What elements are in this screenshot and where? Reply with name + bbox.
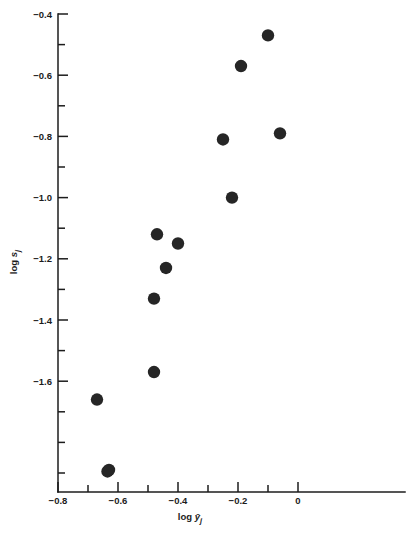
x-tick-label: −0.4 (169, 495, 188, 506)
x-axis-ticks (58, 482, 298, 492)
y-tick-label: −1.2 (33, 253, 52, 264)
data-point (101, 465, 113, 477)
data-point (217, 133, 229, 145)
x-axis-title: log ȳj (178, 511, 203, 525)
data-point (235, 60, 247, 72)
data-point (91, 393, 103, 405)
svg-text:log sj: log sj (8, 249, 22, 274)
caption-ghost-line (60, 528, 405, 538)
data-point (160, 262, 172, 274)
data-point (148, 292, 160, 304)
x-tick-label: −0.8 (49, 495, 68, 506)
y-tick-label: −0.4 (33, 9, 52, 20)
x-axis-title-subscript: j (199, 516, 203, 525)
y-tick-label: −1.0 (33, 192, 52, 203)
data-point (226, 191, 238, 203)
data-point (172, 237, 184, 249)
y-tick-label: −0.6 (33, 70, 52, 81)
data-point (274, 127, 286, 139)
y-tick-label: −1.6 (33, 376, 52, 387)
data-point (262, 29, 274, 41)
data-points-group (91, 29, 286, 477)
y-tick-label: −0.8 (33, 131, 52, 142)
x-tick-label: −0.2 (229, 495, 248, 506)
y-axis-ticks (58, 14, 68, 473)
x-tick-label: −0.6 (109, 495, 128, 506)
scatter-plot-canvas: −0.4−0.6−0.8−1.0−1.2−1.4−1.6 −0.8−0.6−0.… (0, 0, 413, 540)
svg-text:log ȳj: log ȳj (178, 511, 203, 525)
y-tick-label: −1.4 (33, 315, 52, 326)
data-point (148, 366, 160, 378)
scatter-plot-figure: −0.4−0.6−0.8−1.0−1.2−1.4−1.6 −0.8−0.6−0.… (0, 0, 413, 540)
y-axis-title-prefix: log (8, 257, 19, 274)
x-axis-title-prefix: log (178, 511, 195, 522)
x-tick-label: 0 (295, 495, 300, 506)
y-axis-tick-labels: −0.4−0.6−0.8−1.0−1.2−1.4−1.6 (33, 9, 52, 387)
x-axis-tick-labels: −0.8−0.6−0.4−0.20 (49, 495, 301, 506)
y-axis-title-subscript: j (13, 249, 22, 253)
y-axis-title: log sj (8, 249, 22, 274)
data-point (151, 228, 163, 240)
axes-group (58, 14, 405, 492)
